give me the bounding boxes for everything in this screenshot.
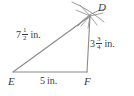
side-DE-unit: in. [31,30,41,40]
side-EF-unit: in. [47,76,57,86]
side-length-label-DF: 3 3 4 in. [90,36,115,52]
side-length-label-EF: 5 in. [40,76,57,86]
side-DF-unit: in. [105,39,115,49]
vertex-label-E: E [8,76,15,87]
side-DE-denominator: 2 [22,34,28,42]
vertex-label-F: F [84,76,91,87]
side-DE-line [13,16,90,72]
side-EF-whole: 5 [40,76,45,86]
side-DF-fraction: 3 4 [96,36,102,52]
geometry-figure: D E F 7 1 2 in. 3 3 4 in. 5 in. [0,0,134,96]
side-DF-denominator: 4 [96,43,102,51]
side-DE-whole: 7 [16,30,21,40]
side-DE-fraction: 1 2 [22,27,28,43]
compass-arc-tick-d-icon [76,10,90,16]
side-length-label-DE: 7 1 2 in. [16,27,41,43]
triangle-sides-group [13,16,90,72]
side-DE-numerator: 1 [22,27,28,34]
side-DF-numerator: 3 [96,36,102,43]
compass-arc-tick-c-icon [90,16,97,25]
vertex-label-D: D [98,2,106,13]
side-DF-whole: 3 [90,39,95,49]
